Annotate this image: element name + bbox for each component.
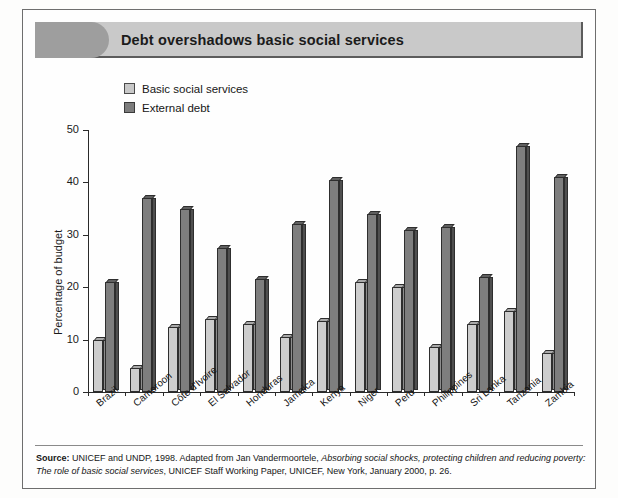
bar-basic-social-services <box>317 321 327 392</box>
x-axis-tick <box>350 392 351 396</box>
bar-face <box>105 282 115 392</box>
legend-swatch-icon-external-debt <box>124 102 135 113</box>
bar-face <box>404 230 414 392</box>
bar-external-debt <box>367 214 377 392</box>
figure-panel: Debt overshadows basic social services B… <box>0 0 618 498</box>
bar-basic-social-services <box>93 340 103 392</box>
bar-face <box>355 282 365 392</box>
bar-external-debt <box>180 209 190 392</box>
y-axis-tick-label: 20 <box>53 280 79 292</box>
bar-side-face <box>451 227 455 390</box>
bar-external-debt <box>441 227 451 392</box>
source-divider <box>35 445 583 446</box>
bar-basic-social-services <box>355 282 365 392</box>
x-axis-tick <box>387 392 388 396</box>
y-axis-tick-label: 30 <box>53 228 79 240</box>
x-axis-tick <box>163 392 164 396</box>
bar-side-face <box>489 277 493 390</box>
x-axis-tick <box>88 392 89 396</box>
bar-face <box>542 353 552 392</box>
legend-label-external-debt: External debt <box>142 102 210 114</box>
x-axis-tick <box>200 392 201 396</box>
bar-external-debt <box>255 279 265 392</box>
bar-face <box>142 198 152 392</box>
bar-external-debt <box>142 198 152 392</box>
bar-face <box>329 180 339 392</box>
bar-side-face <box>190 209 194 390</box>
bar-face <box>317 321 327 392</box>
bar-side-face <box>377 214 381 390</box>
y-axis-tick <box>83 235 88 236</box>
bar-face <box>367 214 377 392</box>
source-label: Source: <box>36 453 70 463</box>
x-axis-tick <box>462 392 463 396</box>
bar-basic-social-services <box>392 287 402 392</box>
title-accent-cap <box>35 22 109 58</box>
y-axis-tick-label: 50 <box>53 123 79 135</box>
bar-side-face <box>564 177 568 390</box>
bar-external-debt <box>404 230 414 392</box>
y-axis-tick-label: 40 <box>53 175 79 187</box>
y-axis-tick-label: 0 <box>53 385 79 397</box>
bar-face <box>392 287 402 392</box>
page-title: Debt overshadows basic social services <box>121 22 404 58</box>
bar-external-debt <box>292 224 302 392</box>
x-axis-tick <box>499 392 500 396</box>
x-axis-tick <box>312 392 313 396</box>
legend-label-basic-social-services: Basic social services <box>142 83 248 95</box>
bar-side-face <box>414 230 418 390</box>
bar-face <box>130 368 140 392</box>
x-axis-tick <box>238 392 239 396</box>
bar-basic-social-services <box>130 368 140 392</box>
bar-face <box>441 227 451 392</box>
legend-item-basic-social-services: Basic social services <box>124 80 248 97</box>
source-text-first: UNICEF and UNDP, 1998. Adapted from Jan … <box>70 453 322 463</box>
bar-external-debt <box>105 282 115 392</box>
x-axis-tick <box>275 392 276 396</box>
figure-title-bar: Debt overshadows basic social services <box>35 22 583 58</box>
bar-side-face <box>526 146 530 390</box>
bar-side-face <box>227 248 231 390</box>
bar-external-debt <box>217 248 227 392</box>
y-axis-tick-label: 10 <box>53 333 79 345</box>
x-axis-tick <box>537 392 538 396</box>
source-note: Source: UNICEF and UNDP, 1998. Adapted f… <box>36 452 586 477</box>
bar-face <box>429 347 439 392</box>
bar-basic-social-services <box>280 337 290 392</box>
bar-face <box>554 177 564 392</box>
x-axis-tick <box>424 392 425 396</box>
y-axis-tick <box>83 182 88 183</box>
source-text-second: , UNICEF Staff Working Paper, UNICEF, Ne… <box>164 466 452 476</box>
bar-side-face <box>115 282 119 390</box>
bar-side-face <box>302 224 306 390</box>
plot-area: Percentage of budget <box>88 130 574 392</box>
y-axis-tick <box>83 130 88 131</box>
bar-side-face <box>265 279 269 390</box>
bar-face <box>217 248 227 392</box>
legend-swatch-icon-basic-social-services <box>124 83 135 94</box>
y-axis-tick <box>83 340 88 341</box>
x-axis-tick <box>125 392 126 396</box>
bar-side-face <box>339 180 343 390</box>
bar-basic-social-services <box>429 347 439 392</box>
bar-face <box>255 279 265 392</box>
bar-face <box>292 224 302 392</box>
y-axis-tick <box>83 287 88 288</box>
chart-legend: Basic social services External debt <box>124 80 248 118</box>
bar-face <box>479 277 489 392</box>
legend-item-external-debt: External debt <box>124 99 248 116</box>
bar-external-debt <box>554 177 564 392</box>
bar-face <box>93 340 103 392</box>
bar-face <box>280 337 290 392</box>
bar-external-debt <box>329 180 339 392</box>
bar-basic-social-services <box>542 353 552 392</box>
bar-face <box>516 146 526 392</box>
bar-external-debt <box>516 146 526 392</box>
bar-side-face <box>152 198 156 390</box>
x-axis-tick <box>574 392 575 396</box>
bar-face <box>180 209 190 392</box>
bar-external-debt <box>479 277 489 392</box>
